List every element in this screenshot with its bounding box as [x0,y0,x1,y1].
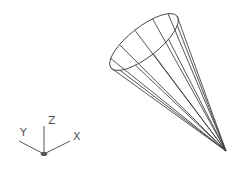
drawing-viewport[interactable]: Z Y X [0,0,240,171]
cone-generator-line [120,45,227,151]
cone-wireframe [0,0,240,171]
cone-generator-line [135,65,226,151]
ucs-origin-marker [41,152,47,155]
ucs-label-z: Z [48,115,56,126]
ucs-x-axis [44,141,70,154]
cone-generator-line [169,39,227,151]
cone-generator-line [153,19,226,151]
cone-generator-line [135,30,226,151]
cone-generator-line [177,16,226,151]
ucs-label-y: Y [20,127,27,138]
ucs-label-x: X [73,131,81,142]
cone-generator-line [111,59,226,152]
ucs-y-axis [19,141,44,154]
